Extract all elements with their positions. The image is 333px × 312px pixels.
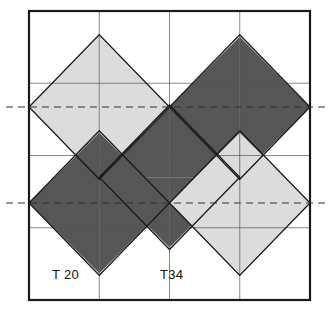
tiling-pattern-diagram: T 20 T34 xyxy=(0,0,333,312)
tile-label-t34: T34 xyxy=(160,267,183,282)
figure-container: T 20 T34 xyxy=(0,0,333,312)
tile-label-t20: T 20 xyxy=(52,267,79,282)
